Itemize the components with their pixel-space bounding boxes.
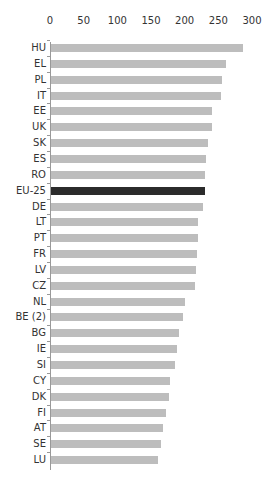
y-tick	[47, 88, 50, 89]
bar	[51, 313, 183, 321]
bar-row: ES	[0, 151, 268, 167]
category-label: SK	[33, 137, 46, 148]
y-tick	[47, 183, 50, 184]
bar	[51, 440, 161, 448]
category-label: NL	[33, 296, 46, 307]
y-tick	[47, 373, 50, 374]
y-tick	[47, 278, 50, 279]
bar	[51, 234, 198, 242]
category-label: CY	[33, 375, 46, 386]
category-label: LV	[35, 264, 46, 275]
bar-row: EL	[0, 56, 268, 72]
y-tick	[47, 167, 50, 168]
bar	[51, 250, 197, 258]
x-tick-label: 100	[108, 15, 127, 26]
x-tick-label: 0	[47, 15, 53, 26]
category-label: BG	[32, 327, 46, 338]
bar-row: HU	[0, 40, 268, 56]
bar	[51, 123, 212, 131]
category-label: CZ	[32, 280, 46, 291]
bar-row: AT	[0, 420, 268, 436]
y-tick	[47, 420, 50, 421]
category-label: UK	[32, 121, 46, 132]
y-tick	[47, 405, 50, 406]
bar	[51, 377, 170, 385]
bar-row: LT	[0, 214, 268, 230]
y-tick	[47, 72, 50, 73]
bar-row: BG	[0, 325, 268, 341]
bar-row: LU	[0, 452, 268, 468]
y-tick	[47, 103, 50, 104]
y-tick	[47, 214, 50, 215]
y-tick	[47, 294, 50, 295]
bar	[51, 218, 198, 226]
bar-row: UK	[0, 119, 268, 135]
bar	[51, 92, 221, 100]
y-tick	[47, 325, 50, 326]
category-label: FI	[37, 407, 46, 418]
bar	[51, 409, 166, 417]
bar	[51, 171, 205, 179]
y-tick	[47, 246, 50, 247]
bar-row: SE	[0, 436, 268, 452]
y-tick	[47, 452, 50, 453]
bar	[51, 361, 175, 369]
bar-row: CZ	[0, 278, 268, 294]
category-label: BE (2)	[15, 311, 46, 322]
bar	[51, 456, 158, 464]
bar-row: FI	[0, 405, 268, 421]
y-tick	[47, 230, 50, 231]
bar-row: CY	[0, 373, 268, 389]
bar	[51, 76, 222, 84]
bar-row: IT	[0, 88, 268, 104]
category-label: AT	[34, 422, 46, 433]
y-tick	[47, 309, 50, 310]
category-label: SI	[37, 359, 46, 370]
y-tick	[47, 389, 50, 390]
bar-row: RO	[0, 167, 268, 183]
bar	[51, 282, 195, 290]
category-label: IT	[37, 90, 46, 101]
y-tick	[47, 357, 50, 358]
bar	[51, 203, 203, 211]
category-label: PL	[34, 74, 46, 85]
x-tick-label: 200	[175, 15, 194, 26]
x-tick-label: 50	[77, 15, 90, 26]
bar	[51, 345, 177, 353]
bar	[51, 329, 179, 337]
y-tick	[47, 151, 50, 152]
y-tick	[47, 262, 50, 263]
bar-row: PT	[0, 230, 268, 246]
bar	[51, 60, 226, 68]
category-label: HU	[31, 42, 46, 53]
bar	[51, 44, 243, 52]
bar	[51, 393, 169, 401]
bar-row: IE	[0, 341, 268, 357]
y-tick	[47, 199, 50, 200]
category-label: IE	[37, 343, 46, 354]
bar	[51, 155, 206, 163]
y-tick	[47, 56, 50, 57]
bar	[51, 139, 208, 147]
bar	[51, 266, 196, 274]
bar-row: EE	[0, 103, 268, 119]
x-tick-label: 250	[209, 15, 228, 26]
bar-row: SI	[0, 357, 268, 373]
bar	[51, 187, 205, 195]
bar	[51, 424, 163, 432]
x-tick-label: 150	[141, 15, 160, 26]
category-label: EU-25	[16, 185, 46, 196]
bar-row: PL	[0, 72, 268, 88]
category-label: EL	[34, 58, 46, 69]
category-label: LT	[36, 216, 46, 227]
x-tick-label: 300	[242, 15, 261, 26]
bar-row: NL	[0, 294, 268, 310]
y-tick	[47, 436, 50, 437]
category-label: EE	[33, 105, 46, 116]
category-label: DE	[32, 201, 46, 212]
bar-row: BE (2)	[0, 309, 268, 325]
bar-row: LV	[0, 262, 268, 278]
category-label: LU	[34, 454, 46, 465]
category-label: DK	[32, 391, 46, 402]
category-label: ES	[33, 153, 46, 164]
